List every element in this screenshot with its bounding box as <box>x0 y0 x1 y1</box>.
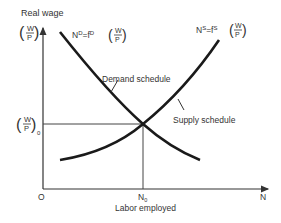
equilibrium-wage-label: ( W P ) 0 <box>16 115 41 136</box>
svg-text:): ) <box>31 116 36 133</box>
y-axis-symbol: ( W P ) <box>19 24 39 42</box>
svg-text:P: P <box>235 31 240 38</box>
svg-text:(: ( <box>19 24 25 41</box>
demand-equation: ND=fD ( W P ) <box>72 27 127 43</box>
svg-text:): ) <box>34 24 39 41</box>
y-axis-label: Real wage <box>21 8 64 18</box>
svg-text:P: P <box>24 124 29 133</box>
demand-schedule-label: Demand schedule <box>102 74 171 84</box>
svg-text:P: P <box>27 33 32 42</box>
svg-text:): ) <box>122 27 127 43</box>
supply-pointer <box>178 99 184 110</box>
origin-label: O <box>38 192 45 202</box>
svg-text:(: ( <box>229 22 234 38</box>
svg-text:0: 0 <box>37 130 41 136</box>
supply-equation: NS=fS ( W P ) <box>196 22 247 38</box>
equilibrium-labor-label: N0 <box>138 192 147 203</box>
x-axis-end-label: N <box>260 192 266 202</box>
svg-text:(: ( <box>16 116 22 133</box>
labor-market-diagram: Real wage ( W P ) ( W P ) 0 ND=fD ( W P … <box>0 0 281 223</box>
svg-text:(: ( <box>108 27 113 43</box>
supply-curve <box>60 40 219 160</box>
x-axis-label: Labor employed <box>115 203 176 213</box>
svg-text:): ) <box>242 22 247 38</box>
svg-text:NS=fS: NS=fS <box>196 25 218 35</box>
svg-text:P: P <box>115 36 120 43</box>
demand-curve <box>60 32 200 160</box>
svg-text:W: W <box>235 22 242 29</box>
svg-text:W: W <box>115 27 122 34</box>
svg-text:ND=fD: ND=fD <box>72 30 95 40</box>
supply-schedule-label: Supply schedule <box>173 115 236 125</box>
